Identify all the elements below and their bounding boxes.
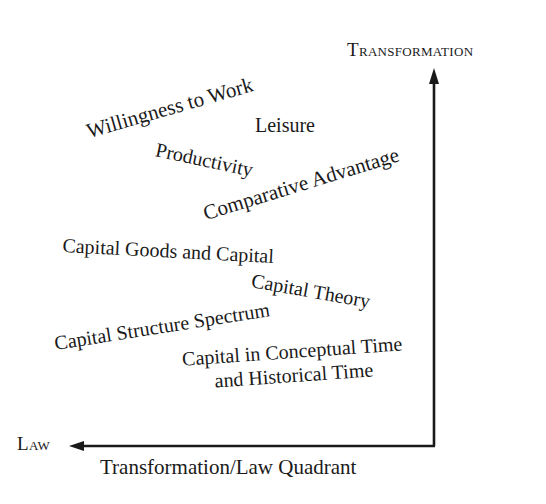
- concept-leisure: Leisure: [255, 115, 315, 135]
- axis-label-law: Law: [17, 434, 50, 453]
- transformation-law-quadrant-diagram: Transformation Law Willingness to Work L…: [0, 0, 546, 504]
- axis-label-transformation: Transformation: [347, 40, 473, 59]
- arrow-up-icon: [429, 68, 439, 84]
- diagram-caption: Transformation/Law Quadrant: [100, 457, 356, 478]
- arrow-left-icon: [69, 441, 84, 451]
